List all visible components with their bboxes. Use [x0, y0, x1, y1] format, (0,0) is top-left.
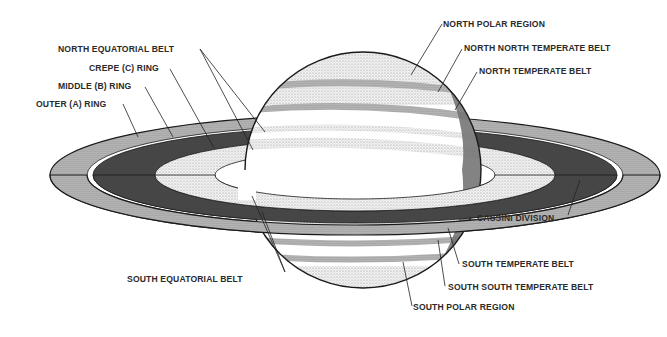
label-outer-ring: OUTER (A) RING — [36, 100, 106, 109]
label-cassini-division: CASSINI DIVISION — [477, 214, 554, 223]
label-north-equatorial-belt: NORTH EQUATORIAL BELT — [58, 45, 174, 54]
label-south-south-temperate-belt: SOUTH SOUTH TEMPERATE BELT — [448, 283, 593, 292]
planet-body — [240, 45, 490, 296]
label-north-polar-region: NORTH POLAR REGION — [443, 20, 545, 29]
label-south-equatorial-belt: SOUTH EQUATORIAL BELT — [127, 275, 243, 284]
label-crepe-ring: CREPE (C) RING — [89, 64, 159, 73]
label-south-polar-region: SOUTH POLAR REGION — [413, 303, 515, 312]
saturn-diagram: NORTH EQUATORIAL BELT CREPE (C) RING MID… — [0, 0, 667, 337]
label-middle-ring: MIDDLE (B) RING — [58, 82, 131, 91]
label-south-temperate-belt: SOUTH TEMPERATE BELT — [462, 260, 574, 269]
label-north-north-temperate-belt: NORTH NORTH TEMPERATE BELT — [464, 44, 610, 53]
label-north-temperate-belt: NORTH TEMPERATE BELT — [479, 67, 592, 76]
